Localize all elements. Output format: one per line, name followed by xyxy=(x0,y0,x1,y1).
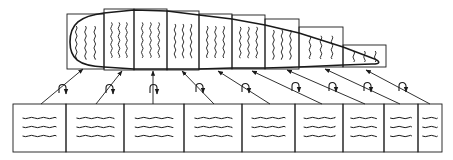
wave-line xyxy=(94,26,96,59)
airfoil-panel xyxy=(104,9,134,70)
flat-panel xyxy=(124,104,184,152)
wave-line xyxy=(76,135,114,136)
wave-line xyxy=(290,30,292,59)
diagram-canvas xyxy=(0,0,453,160)
wave-line xyxy=(23,117,57,118)
flat-panel xyxy=(184,104,242,152)
wave-line xyxy=(390,135,412,136)
airfoil-panel xyxy=(299,27,343,67)
wave-line xyxy=(252,117,286,118)
wave-line xyxy=(364,51,366,62)
flat-panel xyxy=(242,104,295,152)
wave-line xyxy=(281,30,283,59)
rotation-icon xyxy=(150,85,157,94)
wave-line xyxy=(252,135,286,136)
wave-line xyxy=(331,36,333,59)
airfoil-panel xyxy=(199,14,232,69)
wave-line xyxy=(390,117,412,118)
wave-line xyxy=(174,24,176,58)
wave-line xyxy=(75,26,77,59)
flat-panel xyxy=(418,104,442,152)
wave-line xyxy=(118,22,120,57)
wave-line xyxy=(150,22,152,57)
wave-line xyxy=(135,126,174,127)
wave-line xyxy=(304,117,336,118)
wave-line xyxy=(422,126,437,127)
wave-line xyxy=(76,117,114,118)
wave-line xyxy=(353,51,355,62)
wave-line xyxy=(206,26,208,58)
wave-line xyxy=(111,22,113,57)
flat-panel xyxy=(384,104,418,152)
wave-line xyxy=(194,117,232,118)
wave-line xyxy=(239,27,241,58)
wave-line xyxy=(273,30,275,59)
airfoil-unrolling-diagram xyxy=(0,0,453,160)
wave-line xyxy=(304,135,336,136)
wave-line xyxy=(23,126,57,127)
wave-line xyxy=(350,126,376,127)
flat-panel-group xyxy=(13,104,442,152)
wave-line xyxy=(194,135,232,136)
wave-line xyxy=(158,22,160,57)
wave-line xyxy=(135,135,174,136)
wave-line xyxy=(374,51,376,62)
flat-panel xyxy=(13,104,66,152)
mapping-arrow xyxy=(150,71,157,104)
wave-line xyxy=(194,126,232,127)
airfoil-panel xyxy=(232,15,265,69)
wave-line xyxy=(309,36,311,59)
wave-line xyxy=(252,126,286,127)
wave-line xyxy=(126,22,128,57)
wave-line xyxy=(223,26,225,58)
mapping-arrow xyxy=(96,71,122,104)
wave-line xyxy=(248,27,250,58)
mapping-arrow xyxy=(366,70,430,104)
wave-line xyxy=(422,135,437,136)
airfoil-panel xyxy=(67,14,104,69)
wave-line xyxy=(23,135,57,136)
wave-line xyxy=(422,117,437,118)
airfoil-panel xyxy=(134,9,167,70)
wave-line xyxy=(141,22,143,57)
mapping-arrow-group xyxy=(41,69,430,104)
wave-line xyxy=(85,26,87,59)
flat-panel xyxy=(66,104,124,152)
wave-line xyxy=(215,26,217,58)
wave-line xyxy=(256,27,258,58)
mapping-arrow xyxy=(41,69,83,104)
mapping-arrow xyxy=(182,71,214,104)
wave-line xyxy=(350,117,376,118)
wave-line xyxy=(76,126,114,127)
wave-line xyxy=(190,24,192,58)
wave-line xyxy=(304,126,336,127)
wave-line xyxy=(390,126,412,127)
flat-panel xyxy=(295,104,343,152)
airfoil-panel xyxy=(167,11,199,70)
flat-panel xyxy=(343,104,384,152)
wave-line xyxy=(182,24,184,58)
wave-line xyxy=(350,135,376,136)
wave-line xyxy=(135,117,174,118)
